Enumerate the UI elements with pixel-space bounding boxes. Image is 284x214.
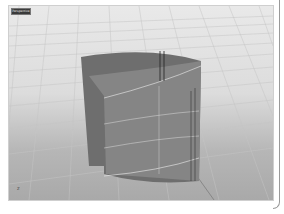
viewport-title-label[interactable]: Perspective: [11, 8, 31, 15]
viewport-frame: Perspective z: [0, 0, 284, 214]
cylinder-surface: [81, 51, 201, 182]
scene-render: [9, 6, 273, 200]
panel-border: [273, 0, 280, 209]
axis-icon: z: [17, 185, 20, 191]
perspective-viewport[interactable]: [8, 5, 274, 201]
